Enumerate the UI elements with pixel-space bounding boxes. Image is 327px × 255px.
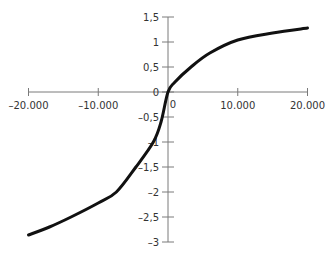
y-tick-label: –0,5	[138, 112, 159, 123]
chart-canvas: –20.000–10.000010.00020.0001,510,50–0,5–…	[0, 0, 327, 255]
y-tick-label: 1,5	[143, 12, 159, 23]
x-tick-label: –20.000	[9, 100, 49, 111]
y-tick-label: 1	[153, 37, 159, 48]
x-tick-label: 20.000	[290, 100, 325, 111]
y-tick-label: –2	[148, 187, 159, 198]
y-tick-label: –2,5	[138, 212, 159, 223]
axes	[29, 17, 308, 242]
x-tick-label: 0	[170, 99, 176, 110]
tick-labels: –20.000–10.000010.00020.0001,510,50–0,5–…	[9, 12, 326, 248]
y-tick-label: –3	[148, 237, 159, 248]
x-tick-label: –10.000	[78, 100, 118, 111]
y-tick-label: 0	[153, 87, 159, 98]
x-tick-label: 10.000	[220, 100, 255, 111]
y-tick-label: –1,5	[138, 162, 159, 173]
chart: –20.000–10.000010.00020.0001,510,50–0,5–…	[0, 0, 327, 255]
y-tick-label: 0,5	[143, 62, 159, 73]
